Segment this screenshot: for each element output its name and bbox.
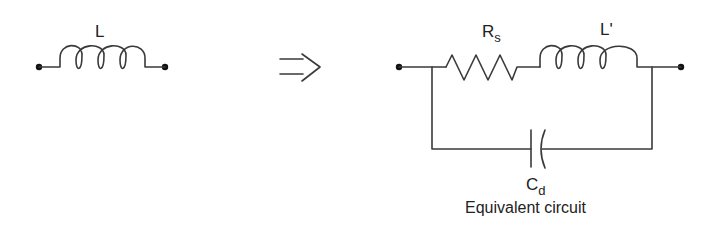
label-capacitor-cd: Cd [526,176,546,193]
label-inductor-l-prime: L' [600,21,613,38]
label-capacitor-main: C [526,175,538,194]
label-resistor-sub: s [494,30,501,45]
inductor-coil-icon [39,46,165,69]
resistor-icon [446,55,540,80]
label-resistor-main: R [482,22,494,41]
inductor-prime-icon [540,46,681,69]
equivalent-circuit [396,46,684,168]
wire-parallel-left [432,67,531,149]
left-inductor [36,46,168,71]
inductor-equivalent-circuit-diagram: L Rs L' Cd Equivalent circuit [0,0,712,227]
implies-arrow-icon [280,54,320,81]
label-inductor-l: L [95,23,104,40]
label-resistor-rs: Rs [482,23,501,40]
label-capacitor-sub: d [538,183,545,198]
caption-equivalent-circuit: Equivalent circuit [465,200,586,216]
wire-parallel-right [542,67,652,149]
